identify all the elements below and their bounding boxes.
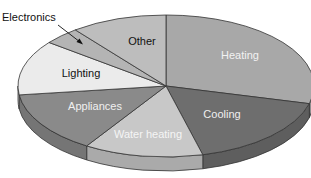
slice-label-appliances: Appliances	[68, 100, 122, 112]
slice-label-water-heating: Water heating	[114, 128, 182, 140]
pie-chart: Heating Cooling Water heating Appliances…	[0, 0, 311, 178]
slice-label-lighting: Lighting	[62, 67, 101, 79]
slice-label-cooling: Cooling	[203, 108, 240, 120]
slice-label-other: Other	[128, 35, 156, 47]
slice-label-heating: Heating	[221, 49, 259, 61]
callout-label-electronics: Electronics	[2, 11, 56, 23]
